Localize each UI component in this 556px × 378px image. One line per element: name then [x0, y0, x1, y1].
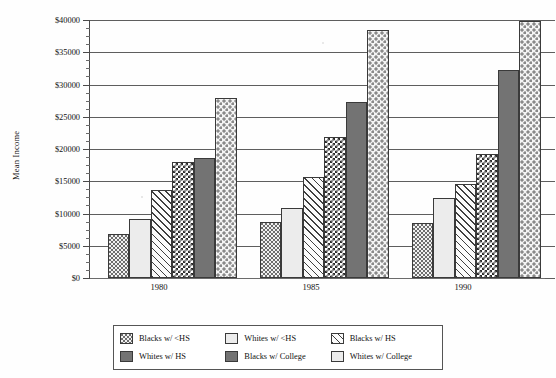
bar — [498, 70, 520, 278]
right-axis-tick — [545, 246, 555, 247]
chart-legend: Blacks w/ <HS Whites w/ <HS Blacks w/ HS… — [113, 325, 443, 370]
legend-item: Whites w/ College — [331, 351, 436, 362]
y-axis-tick — [83, 246, 90, 247]
bar — [476, 154, 498, 278]
x-axis-tick-label: 1990 — [454, 282, 471, 292]
x-axis-tick-label: 1980 — [150, 282, 167, 292]
bar — [324, 137, 346, 278]
bar — [172, 162, 194, 278]
bar — [260, 222, 282, 278]
legend-item: Blacks w/ <HS — [120, 333, 225, 344]
plot-area: $0$5000$10000$15000$20000$25000$30000$35… — [89, 20, 545, 278]
y-axis-tick — [83, 52, 90, 53]
y-axis-tick-label: $10000 — [55, 209, 80, 218]
bar — [367, 30, 389, 278]
bar — [129, 219, 151, 278]
legend-swatch-icon — [331, 351, 344, 362]
legend-label: Whites w/ College — [350, 352, 412, 361]
bar — [412, 223, 434, 278]
y-axis-tick-label: $20000 — [55, 145, 80, 154]
bar — [215, 98, 237, 278]
legend-row-2: Whites w/ HS Blacks w/ College Whites w/… — [120, 348, 436, 366]
legend-item: Blacks w/ HS — [331, 333, 436, 344]
y-axis-tick — [83, 214, 90, 215]
y-axis-tick — [83, 149, 90, 150]
y-axis-tick-label: $0 — [72, 274, 80, 283]
bar — [194, 158, 216, 278]
scan-speck — [141, 196, 143, 198]
bar — [151, 190, 173, 278]
y-axis-tick-label: $15000 — [55, 177, 80, 186]
legend-swatch-icon — [120, 351, 133, 362]
right-axis-tick — [545, 85, 555, 86]
y-axis-tick-label: $5000 — [59, 241, 80, 250]
right-axis-tick — [545, 278, 555, 279]
bar — [433, 198, 455, 278]
right-axis-tick — [545, 214, 555, 215]
legend-swatch-icon — [225, 333, 238, 344]
bar — [108, 234, 130, 278]
legend-label: Blacks w/ <HS — [139, 334, 190, 343]
y-axis-tick-label: $40000 — [55, 16, 80, 25]
legend-swatch-icon — [120, 333, 133, 344]
legend-row-1: Blacks w/ <HS Whites w/ <HS Blacks w/ HS — [120, 330, 436, 348]
bar — [519, 21, 541, 278]
bar-group — [394, 20, 546, 278]
legend-label: Blacks w/ HS — [350, 334, 396, 343]
legend-item: Whites w/ HS — [120, 351, 225, 362]
y-axis-tick — [83, 117, 90, 118]
y-axis-tick-label: $25000 — [55, 112, 80, 121]
legend-swatch-icon — [331, 333, 344, 344]
x-axis-tick-label: 1985 — [302, 282, 319, 292]
plot-inner — [90, 20, 545, 278]
y-axis-tick — [83, 20, 90, 21]
legend-label: Whites w/ <HS — [244, 334, 296, 343]
bar-group — [242, 20, 394, 278]
bar — [281, 208, 303, 278]
y-axis-tick — [83, 181, 90, 182]
legend-label: Whites w/ HS — [139, 352, 186, 361]
right-axis-tick — [545, 149, 555, 150]
x-axis-labels: 198019851990 — [89, 278, 545, 298]
y-axis-title: Mean Income — [8, 95, 24, 215]
y-axis-tick-label: $35000 — [55, 48, 80, 57]
right-axis-tick — [545, 117, 555, 118]
bar — [346, 102, 368, 278]
scan-speck — [322, 42, 324, 44]
legend-label: Blacks w/ College — [244, 352, 305, 361]
y-axis-tick — [83, 85, 90, 86]
bar-chart-figure: Mean Income $0$5000$10000$15000$20000$25… — [0, 0, 556, 378]
bar — [455, 184, 477, 278]
right-axis-tick — [545, 181, 555, 182]
legend-item: Blacks w/ College — [225, 351, 330, 362]
right-axis-tick — [545, 52, 555, 53]
legend-swatch-icon — [225, 351, 238, 362]
bar-group — [90, 20, 242, 278]
y-axis-tick-label: $30000 — [55, 80, 80, 89]
legend-item: Whites w/ <HS — [225, 333, 330, 344]
right-axis-tick — [545, 20, 555, 21]
bar — [303, 177, 325, 278]
